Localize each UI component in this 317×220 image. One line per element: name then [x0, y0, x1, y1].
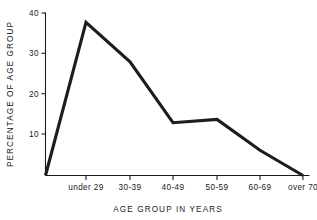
- x-tick-label-50-59: 50-59: [206, 183, 229, 192]
- y-tick-label-30: 30: [29, 49, 39, 58]
- x-tick-label-60-69: 60-69: [249, 183, 272, 192]
- x-tick-label-over-70: over 70: [288, 183, 317, 192]
- y-tick-label-10: 10: [29, 130, 39, 139]
- chart-canvas: 40 30 20 10 under 29 30-39 40-49 50-59 6…: [0, 0, 317, 220]
- line-chart: 40 30 20 10 under 29 30-39 40-49 50-59 6…: [0, 0, 317, 220]
- y-tick-label-20: 20: [29, 90, 39, 99]
- y-axis-title: PERCENTAGE OF AGE GROUP: [6, 21, 15, 167]
- x-tick-label-under-29: under 29: [68, 183, 104, 192]
- data-series-line: [46, 22, 304, 175]
- x-axis-title: AGE GROUP IN YEARS: [113, 205, 223, 214]
- x-tick-label-30-39: 30-39: [119, 183, 142, 192]
- x-tick-label-40-49: 40-49: [162, 183, 185, 192]
- y-tick-label-40: 40: [29, 9, 39, 18]
